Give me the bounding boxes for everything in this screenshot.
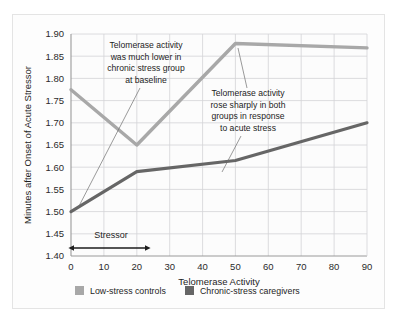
x-tick-label: 20: [132, 261, 143, 272]
legend-label-chronic-stress-caregivers: Chronic-stress caregivers: [200, 286, 300, 296]
y-axis-title: Minutes after Onset of Acute Stressor: [22, 66, 33, 224]
stressor-label: Stressor: [94, 230, 128, 240]
x-tick-label: 30: [164, 261, 175, 272]
x-tick-labels: 0 10 20 30 40 50 60 70 80 90: [68, 261, 372, 272]
y-tick-label: 1.80: [46, 73, 65, 84]
annotation-line: rose sharply in both: [211, 100, 286, 110]
y-tick-label: 1.60: [46, 162, 65, 173]
y-tick-label: 1.50: [46, 206, 65, 217]
x-tick-label: 50: [230, 261, 241, 272]
y-tick-label: 1.65: [46, 139, 65, 150]
annotation-line: groups in response: [211, 111, 284, 121]
x-tick-label: 60: [263, 261, 274, 272]
y-tick-label: 1.75: [46, 95, 65, 106]
annotation-line: was much lower in: [110, 52, 182, 62]
legend-swatch-chronic-stress-caregivers: [185, 286, 194, 295]
annotation-line: Telomerase activity: [109, 40, 183, 50]
x-tick-label: 10: [99, 261, 110, 272]
y-tick-label: 1.85: [46, 51, 65, 62]
y-tick-label: 1.55: [46, 184, 65, 195]
y-tick-label: 1.40: [46, 250, 65, 261]
legend-label-low-stress-controls: Low-stress controls: [90, 286, 166, 296]
y-tick-labels: 1.90 1.85 1.80 1.75 1.70 1.65 1.60 1.55 …: [46, 28, 65, 261]
y-tick-label: 1.90: [46, 28, 65, 39]
legend-swatch-low-stress-controls: [75, 286, 84, 295]
annotation-line: Telomerase activity: [211, 88, 285, 98]
x-tick-label: 40: [197, 261, 208, 272]
y-tick-label: 1.70: [46, 117, 65, 128]
y-tick-label: 1.45: [46, 228, 65, 239]
annotation-line: chronic stress group: [107, 63, 185, 73]
telomerase-line-chart: 1.90 1.85 1.80 1.75 1.70 1.65 1.60 1.55 …: [0, 0, 397, 323]
x-tick-label: 90: [362, 261, 373, 272]
annotation-line: to acute stress: [220, 123, 276, 133]
annotation-line: at baseline: [125, 75, 167, 85]
x-tick-label: 80: [329, 261, 340, 272]
chart-figure: 1.90 1.85 1.80 1.75 1.70 1.65 1.60 1.55 …: [0, 0, 397, 323]
chart-legend: Low-stress controls Chronic-stress careg…: [75, 286, 300, 296]
x-tick-label: 0: [68, 261, 73, 272]
x-tick-label: 70: [296, 261, 307, 272]
